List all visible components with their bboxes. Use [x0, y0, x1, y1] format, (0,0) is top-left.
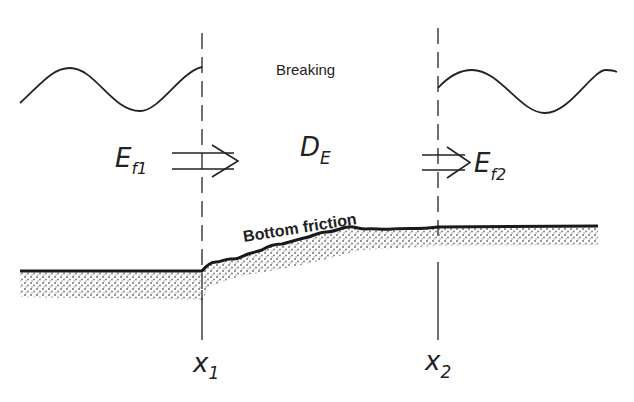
outgoing-flux-arrow-icon [422, 147, 470, 178]
dissipation-label: DE [300, 132, 331, 168]
svg-text:DE: DE [300, 132, 331, 168]
x1-label: x1 [192, 348, 219, 383]
outgoing-wave [438, 70, 617, 113]
outgoing-flux-label: Ef2 [474, 148, 506, 184]
incoming-flux-arrow-icon [172, 145, 238, 177]
incoming-flux-label: Ef1 [115, 143, 147, 178]
svg-text:Ef2: Ef2 [474, 148, 506, 184]
svg-text:Ef1: Ef1 [115, 143, 147, 178]
svg-text:x1: x1 [192, 348, 219, 383]
breaking-label: Breaking [276, 61, 335, 78]
wave-energy-diagram: Breaking Ef1 DE Ef2 Bottom friction x1 x… [0, 0, 634, 402]
x2-label: x2 [424, 346, 451, 382]
incoming-wave [20, 67, 202, 111]
svg-text:x2: x2 [424, 346, 451, 382]
